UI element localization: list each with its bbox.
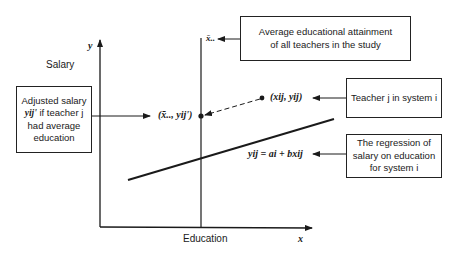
regression-box-line3: for system i	[370, 162, 419, 175]
x-axis-label: Education	[183, 233, 227, 244]
adjusted-point	[198, 113, 203, 118]
regression-equation: yij = ai + bxij	[248, 148, 303, 159]
mean-education-label: x̄..	[206, 33, 215, 43]
adjusted-salary-line4: education	[33, 132, 74, 145]
adjusted-salary-line3: had average	[28, 120, 81, 133]
teacher-point-label: (xij, yij)	[270, 91, 302, 102]
adjusted-salary-box: Adjusted salary yij' if teacher j had av…	[16, 86, 92, 153]
x-axis-symbol: x	[298, 233, 303, 244]
teacher-box: Teacher j in system i	[346, 78, 442, 118]
regression-line	[128, 119, 334, 180]
adjusted-salary-line2-text: if teacher j	[39, 107, 83, 118]
adjusted-salary-line1: Adjusted salary	[22, 95, 87, 108]
y-axis-label: Salary	[46, 59, 74, 70]
adjusted-salary-symbol: yij'	[25, 108, 37, 118]
average-attainment-line1: Average educational attainment	[259, 26, 392, 39]
average-attainment-box: Average educational attainment of all te…	[240, 16, 411, 61]
teacher-point	[260, 96, 265, 101]
adjustment-dashed-arrow	[205, 99, 260, 115]
teacher-box-line1: Teacher j in system i	[351, 92, 437, 105]
regression-box: The regression of salary on education fo…	[346, 134, 442, 178]
regression-box-line2: salary on education	[353, 150, 435, 163]
adjusted-point-label: (x̄.., yij')	[158, 109, 192, 120]
regression-box-line1: The regression of	[357, 137, 431, 150]
x-axis	[100, 227, 312, 228]
average-attainment-line2: of all teachers in the study	[270, 39, 380, 52]
y-axis-symbol: y	[88, 40, 92, 51]
adjusted-salary-line2: yij' if teacher j	[25, 107, 84, 120]
